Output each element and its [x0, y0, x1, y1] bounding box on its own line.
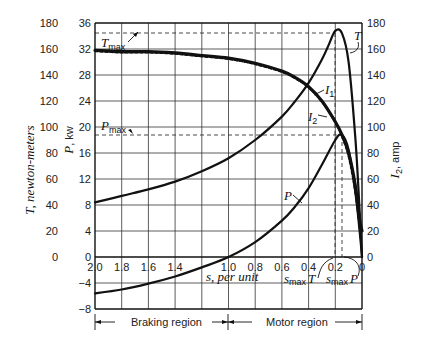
power-tick: 24: [79, 95, 91, 107]
braking-region-label: Braking region: [131, 316, 202, 328]
torque-tick: 120: [40, 95, 58, 107]
i2-curve-label: I2: [307, 109, 317, 126]
p-max-arrowhead: [128, 129, 133, 134]
p-curve-label: P: [283, 188, 292, 203]
current-axis-title: I2, amp: [387, 142, 404, 180]
power-tick: 20: [79, 121, 91, 133]
i2-curve-pointer: [318, 115, 327, 117]
motor-characteristics-chart: 180160140120100806040200 363228242016128…: [0, 0, 422, 345]
torque-tick: 140: [40, 69, 58, 81]
power-tick: −4: [78, 277, 91, 289]
power-axis-title: P, kw: [61, 126, 76, 155]
slip-tick: 0: [359, 261, 365, 273]
current-axis-ticks: 180160140120100806040200: [367, 17, 385, 263]
motor-region-label: Motor region: [266, 316, 328, 328]
current-tick: 20: [367, 225, 379, 237]
power-tick: 16: [79, 147, 91, 159]
torque-tick: 20: [46, 225, 58, 237]
current-tick: 140: [367, 69, 385, 81]
power-tick: 28: [79, 69, 91, 81]
slip-tick: 2.0: [87, 261, 102, 273]
torque-axis-ticks: 180160140120100806040200: [40, 17, 58, 263]
s-max-p-label: smaxP: [326, 271, 358, 287]
current-tick: 180: [367, 17, 385, 29]
current-tick: 60: [367, 173, 379, 185]
power-tick: 32: [79, 43, 91, 55]
torque-axis-title: T, newton-meters: [22, 125, 37, 214]
s-max-t-label: smaxT: [284, 271, 316, 287]
current-tick: 80: [367, 147, 379, 159]
torque-tick: 60: [46, 173, 58, 185]
slip-axis-title: s, per unit: [206, 269, 259, 284]
p-max-label: Pmax: [100, 118, 126, 135]
t-curve-pointer: [350, 42, 359, 53]
torque-tick: 180: [40, 17, 58, 29]
current-tick: 0: [367, 251, 373, 263]
i1-curve-label: I1: [324, 82, 334, 99]
current-tick: 100: [367, 121, 385, 133]
slip-tick: 1.8: [114, 261, 129, 273]
power-tick: −8: [78, 303, 91, 315]
torque-tick: 40: [46, 199, 58, 211]
torque-tick: 80: [46, 147, 58, 159]
torque-tick: 0: [52, 251, 58, 263]
power-tick: 8: [85, 199, 91, 211]
slip-tick: 1.4: [167, 261, 182, 273]
current-tick: 40: [367, 199, 379, 211]
current-tick: 160: [367, 43, 385, 55]
power-tick: 12: [79, 173, 91, 185]
slip-tick: 1.6: [141, 261, 156, 273]
power-tick: 36: [79, 17, 91, 29]
t-curve-label: T: [354, 28, 362, 43]
torque-tick: 160: [40, 43, 58, 55]
torque-tick: 100: [40, 121, 58, 133]
power-tick: 4: [85, 225, 91, 237]
current-tick: 120: [367, 95, 385, 107]
